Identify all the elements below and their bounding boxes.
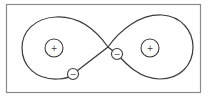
minus-icon: − [70, 70, 77, 79]
positive-charge-left: + [45, 39, 63, 57]
diagram-canvas: + + − − [0, 0, 208, 99]
minus-icon: − [114, 50, 121, 59]
diagram-frame [7, 5, 201, 93]
plus-icon: + [147, 44, 154, 53]
plus-icon: + [51, 44, 58, 53]
negative-charge-center: − [112, 49, 123, 60]
positive-charge-right: + [141, 39, 159, 57]
negative-charge-lower-left: − [68, 69, 79, 80]
